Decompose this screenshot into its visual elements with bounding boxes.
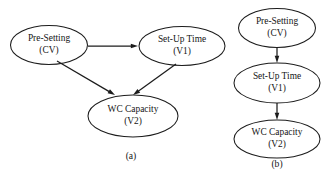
arrow-shaft (57, 61, 111, 92)
wc-capacity-label-line1: WC Capacity (252, 127, 303, 137)
pre-setting-label-line1: Pre-Setting (256, 16, 298, 26)
panel-a: Pre-Setting (CV) Set-Up Time (V1) WC Cap… (11, 26, 226, 163)
node-wc-capacity[interactable]: WC Capacity (V2) (88, 95, 178, 137)
set-up-time-label-line2: (V1) (268, 83, 286, 94)
arrow-pre-setting-to-wc-capacity (57, 61, 115, 95)
set-up-time-label-line1: Set-Up Time (253, 71, 301, 81)
panel-b: Pre-Setting (CV) Set-Up Time (V1) WC Cap… (234, 9, 320, 171)
wc-capacity-label-line2: (V2) (268, 139, 286, 150)
figure-diagram: Pre-Setting (CV) Set-Up Time (V1) WC Cap… (0, 0, 329, 182)
node-pre-setting[interactable]: Pre-Setting (CV) (239, 9, 316, 48)
node-wc-capacity[interactable]: WC Capacity (V2) (234, 120, 320, 158)
set-up-time-label-line1: Set-Up Time (158, 34, 206, 44)
set-up-time-label-line2: (V1) (173, 46, 191, 57)
panel-b-caption: (b) (271, 158, 282, 170)
arrow-head-icon (108, 89, 115, 95)
arrow-head-icon (131, 44, 138, 49)
pre-setting-label-line2: (CV) (267, 28, 286, 39)
node-set-up-time[interactable]: Set-Up Time (V1) (139, 27, 225, 66)
diagram-canvas: Pre-Setting (CV) Set-Up Time (V1) WC Cap… (0, 0, 329, 182)
arrow-pre-setting-to-set-up-time (88, 44, 138, 49)
arrow-head-icon (275, 113, 280, 120)
node-set-up-time[interactable]: Set-Up Time (V1) (234, 63, 320, 103)
arrow-head-icon (275, 56, 280, 63)
node-pre-setting[interactable]: Pre-Setting (CV) (11, 26, 88, 65)
arrow-shaft (137, 64, 176, 92)
arrow-pre-setting-to-set-up-time (275, 47, 280, 63)
pre-setting-label-line1: Pre-Setting (28, 33, 70, 43)
pre-setting-label-line2: (CV) (39, 45, 58, 56)
arrow-set-up-time-to-wc-capacity (275, 103, 280, 120)
wc-capacity-label-line2: (V2) (124, 116, 142, 127)
panel-a-caption: (a) (126, 150, 137, 162)
arrow-set-up-time-to-wc-capacity (133, 64, 176, 95)
wc-capacity-label-line1: WC Capacity (108, 104, 159, 114)
